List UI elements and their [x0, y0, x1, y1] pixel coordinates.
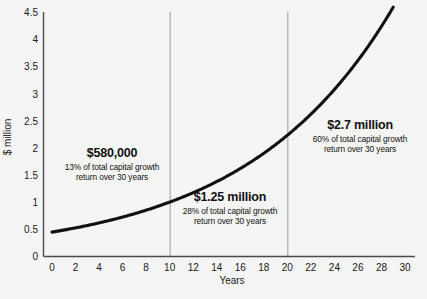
x-tick-24: 24: [329, 262, 341, 273]
x-tick-26: 26: [352, 262, 364, 273]
annotation-line2: return over 30 years: [166, 217, 294, 227]
x-axis-title: Years: [219, 275, 244, 286]
y-tick-3.5: 3.5: [24, 61, 38, 72]
x-tick-12: 12: [188, 262, 200, 273]
capital-growth-chart: 00.511.522.533.544.5 0246810121416182022…: [0, 0, 427, 299]
y-tick-0.5: 0.5: [24, 224, 38, 235]
annotation-amount: $2.7 million: [298, 118, 422, 133]
y-tick-3: 3: [32, 89, 38, 100]
annotation-segment-3: $2.7 million 60% of total capital growth…: [298, 118, 422, 154]
x-tick-22: 22: [305, 262, 317, 273]
y-axis-title: $ million: [2, 119, 13, 156]
y-tick-0: 0: [32, 251, 38, 262]
annotation-amount: $580,000: [48, 146, 176, 161]
x-tick-4: 4: [96, 262, 102, 273]
annotation-line2: return over 30 years: [298, 145, 422, 155]
y-axis-tick-labels: 00.511.522.533.544.5: [24, 7, 38, 262]
annotation-line2: return over 30 years: [48, 173, 176, 183]
x-tick-0: 0: [49, 262, 55, 273]
x-axis-tick-labels: 024681012141618202224262830: [49, 262, 411, 273]
x-tick-10: 10: [164, 262, 176, 273]
x-tick-16: 16: [235, 262, 247, 273]
y-tick-4: 4: [32, 34, 38, 45]
y-tick-2: 2: [32, 143, 38, 154]
x-tick-2: 2: [73, 262, 79, 273]
x-tick-14: 14: [211, 262, 223, 273]
y-tick-2.5: 2.5: [24, 116, 38, 127]
x-tick-8: 8: [143, 262, 149, 273]
x-tick-28: 28: [376, 262, 388, 273]
annotation-amount: $1.25 million: [166, 190, 294, 205]
x-tick-30: 30: [399, 262, 411, 273]
y-tick-1: 1: [32, 197, 38, 208]
y-tick-4.5: 4.5: [24, 7, 38, 18]
x-tick-20: 20: [282, 262, 294, 273]
x-tick-6: 6: [120, 262, 126, 273]
annotation-segment-1: $580,000 13% of total capital growth ret…: [48, 146, 176, 182]
y-tick-1.5: 1.5: [24, 170, 38, 181]
annotation-segment-2: $1.25 million 28% of total capital growt…: [166, 190, 294, 226]
x-tick-18: 18: [258, 262, 270, 273]
